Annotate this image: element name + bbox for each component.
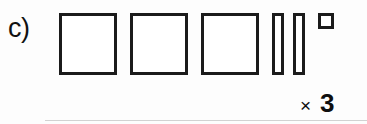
figure-panel-c: c) × 3 — [0, 0, 367, 124]
narrow-rod-2 — [293, 13, 305, 75]
multiplication-sign-icon: × — [300, 96, 311, 115]
large-square-1 — [59, 13, 117, 75]
small-square — [318, 13, 334, 29]
narrow-rod-1 — [272, 13, 284, 75]
large-square-2 — [130, 13, 188, 75]
panel-label: c) — [8, 15, 30, 42]
baseline-rule — [45, 120, 367, 121]
multiplier-count: 3 — [320, 90, 334, 116]
multiplier-annotation: × 3 — [300, 90, 335, 116]
large-square-3 — [201, 13, 259, 75]
